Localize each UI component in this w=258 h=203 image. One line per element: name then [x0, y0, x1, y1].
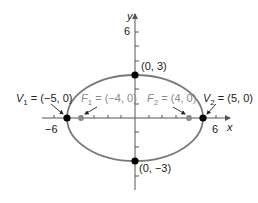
y-axis-ticks — [135, 32, 139, 176]
v1-label: V1 = (−5, 0) — [16, 92, 72, 107]
ellipse-diagram: y 6 x −6 6 (0, 3) (0, −3) V1 = (−5, 0) F… — [0, 0, 258, 203]
x-axis-label: x — [226, 121, 233, 133]
top-point — [131, 71, 138, 78]
x-tick-label-6: 6 — [212, 123, 218, 135]
f1-pointer-arrow — [85, 107, 97, 114]
f2-pointer-arrow — [173, 107, 185, 114]
focus-f1-point — [78, 115, 84, 121]
y-axis-label: y — [126, 10, 134, 22]
v2-label: V2 = (5, 0) — [203, 92, 253, 107]
f2-label: F2 = (4, 0) — [147, 92, 196, 107]
vertex-v1-point — [63, 114, 70, 121]
bottom-point-label: (0, −3) — [139, 162, 171, 174]
focus-f2-point — [186, 115, 192, 121]
vertex-v2-point — [199, 114, 206, 121]
f1-label: F1 = (−4, 0) — [81, 92, 137, 107]
v1-pointer-arrow — [51, 104, 63, 114]
x-tick-label-neg6: −6 — [45, 123, 58, 135]
y-tick-label-6: 6 — [124, 25, 130, 37]
top-point-label: (0, 3) — [141, 60, 167, 72]
bottom-point — [131, 157, 138, 164]
